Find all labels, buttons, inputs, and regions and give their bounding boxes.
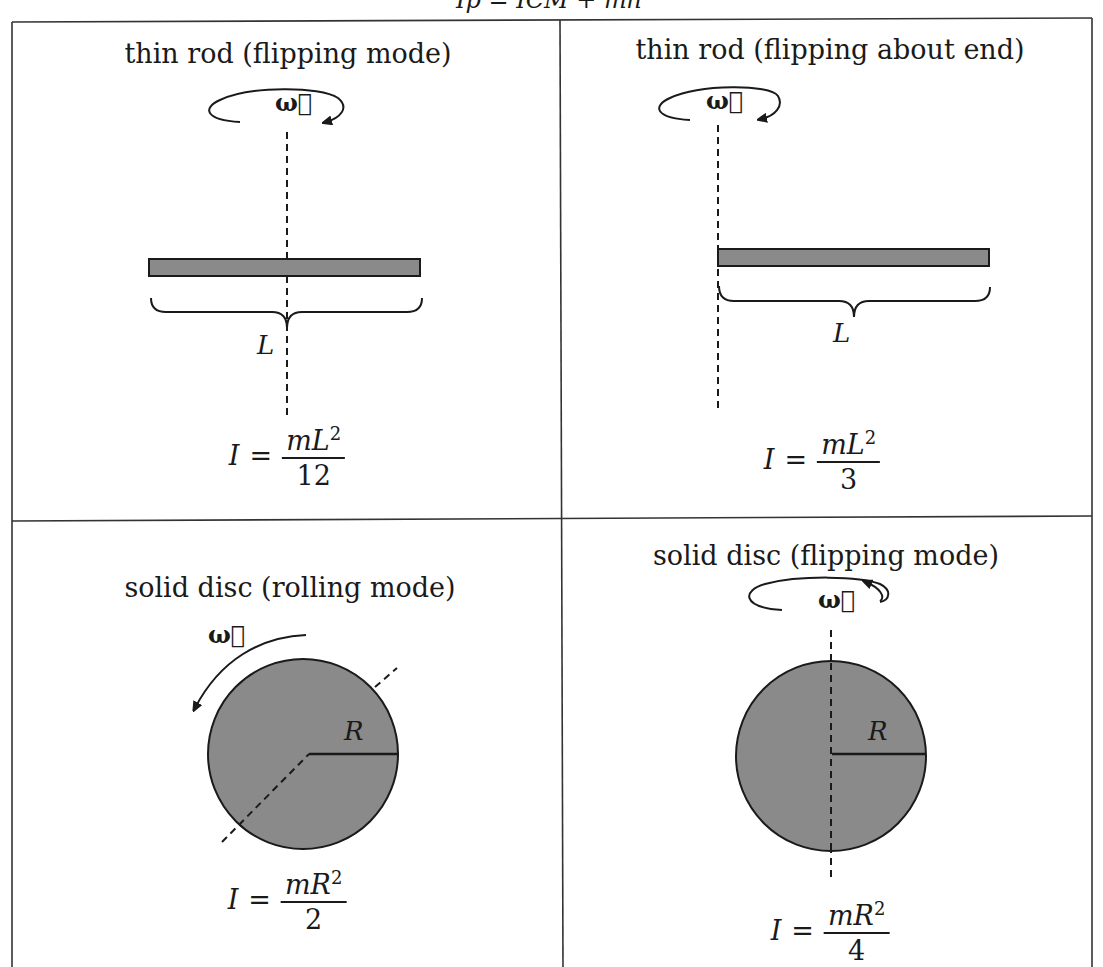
formula-equals: = — [791, 915, 814, 946]
formula-disc-flipping: I = mR2 4 — [771, 893, 890, 967]
table-column-divider — [560, 20, 563, 967]
thin-rod — [149, 259, 420, 276]
length-label: L — [257, 330, 274, 360]
length-label: L — [833, 318, 850, 348]
formula-numerator: mR2 — [281, 862, 346, 901]
omega-vector-label: ω⃗ — [706, 86, 743, 115]
omega-text: ω⃗ — [818, 585, 855, 614]
formula-numerator: mL2 — [817, 422, 880, 461]
formula-denominator: 3 — [840, 463, 857, 497]
formula-fraction: mL2 12 — [282, 418, 345, 493]
formula-numerator: mR2 — [824, 893, 889, 932]
radius-label: R — [344, 716, 364, 746]
rod-center-diagram — [149, 89, 422, 418]
table-grid — [12, 18, 1092, 967]
exponent: 2 — [331, 867, 342, 888]
table-top-border — [12, 18, 1092, 22]
moment-of-inertia-table-graphics — [0, 0, 1103, 967]
rod-end-diagram — [659, 87, 990, 412]
formula-numerator: mL2 — [282, 418, 345, 457]
formula-fraction: mR2 4 — [824, 893, 889, 967]
cell-title-rod-center: thin rod (flipping mode) — [124, 38, 451, 69]
formula-lhs: I — [229, 440, 240, 471]
disc-flipping-diagram — [736, 578, 926, 880]
cell-title-disc-rolling: solid disc (rolling mode) — [124, 572, 455, 603]
cell-title-rod-end: thin rod (flipping about end) — [635, 34, 1024, 65]
omega-text: ω⃗ — [706, 86, 743, 115]
formula-equals: = — [785, 444, 808, 475]
omega-text: ω⃗ — [275, 88, 312, 117]
thin-rod — [718, 249, 989, 266]
exponent: 2 — [330, 423, 341, 444]
formula-rod-center: I = mL2 12 — [229, 418, 345, 493]
exponent: 2 — [874, 898, 885, 919]
omega-text: ω⃗ — [208, 620, 245, 649]
formula-lhs: I — [228, 884, 239, 915]
table-row-divider — [12, 516, 1092, 521]
formula-equals: = — [248, 884, 271, 915]
omega-vector-label: ω⃗ — [275, 88, 312, 117]
formula-denominator: 12 — [296, 459, 330, 493]
radius-label: R — [868, 716, 888, 746]
exponent: 2 — [865, 427, 876, 448]
formula-rod-end: I = mL2 3 — [764, 422, 880, 497]
cell-title-disc-flipping: solid disc (flipping mode) — [653, 540, 999, 571]
formula-equals: = — [250, 440, 273, 471]
numerator-text: mL — [821, 429, 865, 460]
length-brace — [719, 286, 990, 317]
disc-rolling-diagram — [195, 635, 399, 849]
formula-lhs: I — [764, 444, 775, 475]
numerator-text: mR — [285, 869, 331, 900]
formula-fraction: mL2 3 — [817, 422, 880, 497]
formula-fraction: mR2 2 — [281, 862, 346, 937]
numerator-text: mL — [286, 425, 330, 456]
rotation-axis-extension — [375, 668, 397, 687]
omega-vector-label: ω⃗ — [208, 620, 245, 649]
omega-vector-label: ω⃗ — [818, 585, 855, 614]
formula-disc-rolling: I = mR2 2 — [228, 862, 347, 937]
formula-denominator: 2 — [305, 903, 322, 937]
numerator-text: mR — [828, 900, 874, 931]
formula-lhs: I — [771, 915, 782, 946]
formula-denominator: 4 — [848, 934, 865, 967]
